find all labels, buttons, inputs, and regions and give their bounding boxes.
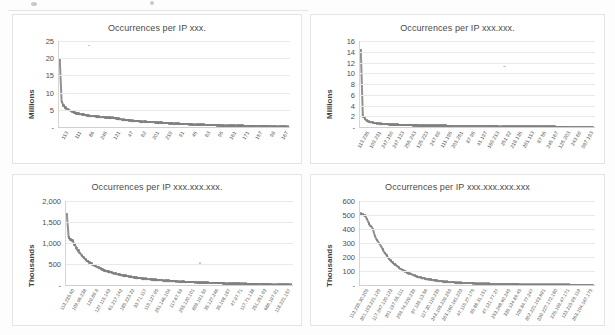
y-axis-tick-label: - xyxy=(353,281,356,290)
gridline xyxy=(359,257,595,258)
y-axis-tick-label: 2 xyxy=(351,112,355,121)
x-axis-labels: 1131118624512147622012199145639516117115… xyxy=(58,127,290,177)
gridline xyxy=(359,52,595,53)
page-root: Occurrences per IP xxx. Millions 2520151… xyxy=(0,0,615,335)
x-axis-tick-label: 98 xyxy=(268,130,276,138)
y-axis-tick-label: 300 xyxy=(342,239,355,248)
y-axis-tick-label: 600 xyxy=(342,197,355,206)
chart-ip-octet-3: Occurrences per IP xxx.xxx.xxx. Thousand… xyxy=(12,174,302,326)
x-axis-tick-label: 245 xyxy=(99,130,109,140)
y-axis-line xyxy=(359,41,360,127)
chart-title: Occurrences per IP xxx. xyxy=(13,23,301,33)
plot-area: 161412108642- 113.235109.231247.150247.1… xyxy=(359,41,595,127)
gridline xyxy=(65,285,293,286)
x-axis-tick-label: 45 xyxy=(190,130,198,138)
chart-title: Occurrences per IP xxx.xxx.xxx.xxx xyxy=(311,182,604,192)
gridline xyxy=(359,73,595,74)
gridline xyxy=(58,93,290,94)
x-axis-tick-label: 111 xyxy=(73,130,82,140)
x-axis-tick-label: 157 xyxy=(253,130,263,140)
x-axis-tick-label: 63 xyxy=(203,130,211,138)
y-axis-title: Thousands xyxy=(27,244,36,287)
gridline xyxy=(58,75,290,76)
chart-ip-octet-4: Occurrences per IP xxx.xxx.xxx.xxx Thous… xyxy=(310,174,605,326)
x-axis-tick-label: 121 xyxy=(112,130,122,140)
x-axis-tick-label: 87.55 xyxy=(535,130,547,144)
y-axis-tick-label: 2,000 xyxy=(42,197,61,206)
gridline xyxy=(359,229,595,230)
y-axis-title: Millions xyxy=(27,89,36,119)
y-axis-tick-label: - xyxy=(52,123,55,132)
y-axis-tick-label: 200 xyxy=(342,253,355,262)
scan-artifact-dot-2 xyxy=(150,1,154,5)
gridline xyxy=(58,110,290,111)
gridline xyxy=(58,58,290,59)
series-points xyxy=(58,41,290,127)
x-axis-tick-label: 113 xyxy=(60,130,69,140)
x-axis-tick-label: 86 xyxy=(87,130,95,138)
gridline xyxy=(58,41,290,42)
y-axis-tick-label: 14 xyxy=(347,47,355,56)
y-axis-tick-label: 10 xyxy=(347,69,355,78)
x-axis-tick-label: 171 xyxy=(241,130,251,140)
gridline xyxy=(359,106,595,107)
chart-title: Occurrences per IP xxx.xxx.xxx. xyxy=(13,182,301,192)
x-axis-tick-label: 91 xyxy=(178,130,186,138)
y-axis-tick-label: 500 xyxy=(48,260,61,269)
gridline xyxy=(65,201,293,202)
gridline xyxy=(359,95,595,96)
y-axis-tick-label: 1,000 xyxy=(42,239,61,248)
y-axis-tick-label: 8 xyxy=(351,80,355,89)
y-axis-tick-label: 500 xyxy=(342,211,355,220)
gridline xyxy=(359,243,595,244)
gridline xyxy=(359,201,595,202)
y-axis-tick-label: 10 xyxy=(46,88,54,97)
scan-speckle xyxy=(199,262,201,264)
y-axis-tick-label: 16 xyxy=(347,37,355,46)
gridline xyxy=(359,84,595,85)
x-axis-tick-label: 47 xyxy=(126,130,134,138)
scan-artifact-line xyxy=(8,10,308,11)
x-axis-tick-label: 219 xyxy=(163,130,173,140)
x-axis-tick-label: 161 xyxy=(228,130,238,140)
y-axis-tick-label: 6 xyxy=(351,90,355,99)
chart-ip-octet-1: Occurrences per IP xxx. Millions 2520151… xyxy=(12,14,302,164)
y-axis-tick-label: - xyxy=(59,281,62,290)
y-axis-line xyxy=(65,201,66,285)
scan-speckle xyxy=(88,45,90,46)
gridline xyxy=(65,264,293,265)
y-axis-tick-label: - xyxy=(353,123,356,132)
x-axis-tick-label: 201 xyxy=(150,130,160,140)
chart-title: Occurrences per IP xxx.xxx. xyxy=(311,23,604,33)
y-axis-tick-label: 100 xyxy=(342,267,355,276)
y-axis-title: Millions xyxy=(325,89,334,119)
series-line-segment xyxy=(59,60,62,102)
y-axis-tick-label: 20 xyxy=(46,54,54,63)
x-axis-tick-label: 95 xyxy=(216,130,224,138)
y-axis-tick-label: 12 xyxy=(347,58,355,67)
y-axis-title: Thousands xyxy=(325,244,334,287)
y-axis-tick-label: 400 xyxy=(342,225,355,234)
scan-artifact-dot-1 xyxy=(31,2,37,6)
x-axis-labels: 113.235109.231247.150247.123255.243125.2… xyxy=(359,127,595,177)
plot-area: 252015105- 11311186245121476220121991456… xyxy=(58,41,290,127)
gridline xyxy=(359,63,595,64)
gridline xyxy=(58,127,290,128)
gridline xyxy=(65,243,293,244)
y-axis-tick-label: 4 xyxy=(351,101,355,110)
series-line-segment xyxy=(66,214,69,238)
x-axis-labels: 113.235.60109.96.238129.89.9127.115.1436… xyxy=(65,285,293,335)
plot-area: 2,0001,5001,000500- 113.235.60109.96.238… xyxy=(65,201,293,285)
y-axis-tick-label: 15 xyxy=(46,71,54,80)
gridline xyxy=(359,116,595,117)
x-axis-tick-label: 62 xyxy=(139,130,147,138)
gridline xyxy=(65,222,293,223)
x-axis-labels: 113.235.30.205301.103.221.125117.247.120… xyxy=(359,285,595,335)
gridline xyxy=(359,215,595,216)
y-axis-line xyxy=(359,201,360,285)
y-axis-line xyxy=(58,41,59,127)
gridline xyxy=(359,127,595,128)
scan-speckle xyxy=(503,66,506,67)
gridline xyxy=(359,271,595,272)
gridline xyxy=(359,285,595,286)
